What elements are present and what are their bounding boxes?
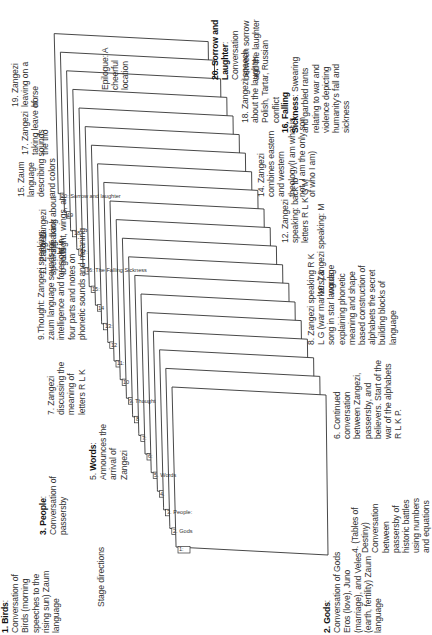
page-tab-1: 1:	[179, 546, 184, 552]
page-tab-2: 2. Gods	[173, 527, 193, 533]
page-tab-5: 5. Words	[154, 472, 176, 478]
annotation-zangezi-7: 7. Zangezi discussing the meaning of let…	[46, 355, 87, 415]
page-tab-7: 7:	[142, 434, 147, 440]
page-tab-6: 6:	[148, 453, 153, 459]
annotation-falling-sickness: 16. Falling Sickness: Swearing and garbl…	[280, 53, 351, 133]
annotation-epilogue: Epilogue: A cheerful location	[100, 30, 131, 90]
page-tab-11: 11:	[117, 360, 124, 366]
annotation-gods: 2. Gods: Conversation of Gods Eros (love…	[322, 551, 383, 633]
page-tab-14: 14	[98, 304, 104, 310]
annotation-sorrow-laughter: 20. Sorrow and Laughter: Conversation be…	[210, 5, 261, 80]
annotation-people: 3. People: Conversation of passersby	[38, 465, 69, 535]
annotation-continued-conversation: 6. Continued conversation between Zangez…	[332, 359, 403, 439]
page-tab-12: 12	[111, 341, 117, 347]
page-tab-9: 9. Thought	[129, 397, 156, 403]
page-tab-15: 15:	[92, 286, 100, 292]
page-tab-8: 8	[136, 416, 139, 422]
page-tab-20: 20: Sorrow and laughter	[61, 193, 121, 199]
annotation-words: 5. Words: Announces the arrival of Zange…	[88, 420, 129, 480]
page-tab-16: 16: The Falling Sickness	[86, 267, 147, 273]
annotation-tables-of-destiny: 4. (Tables of Destiny) Conversation betw…	[350, 495, 432, 553]
page-tab-10: 10	[123, 379, 129, 385]
page-1	[172, 387, 328, 555]
page-tab-4: 4.	[160, 490, 165, 496]
annotation-zangezi-19: 19. Zangezi leaving on a horse	[10, 47, 41, 107]
page-tab-13: 13:	[105, 323, 113, 329]
annotation-stage-directions: Stage directions	[96, 527, 106, 607]
page-tab-3: 3. People:	[167, 509, 192, 515]
annotation-birds: 1. Birds: Conversation of Birds (morning…	[0, 563, 61, 633]
annotation-zangezi-10: 10. Zangezi speaking: M words	[316, 195, 336, 295]
